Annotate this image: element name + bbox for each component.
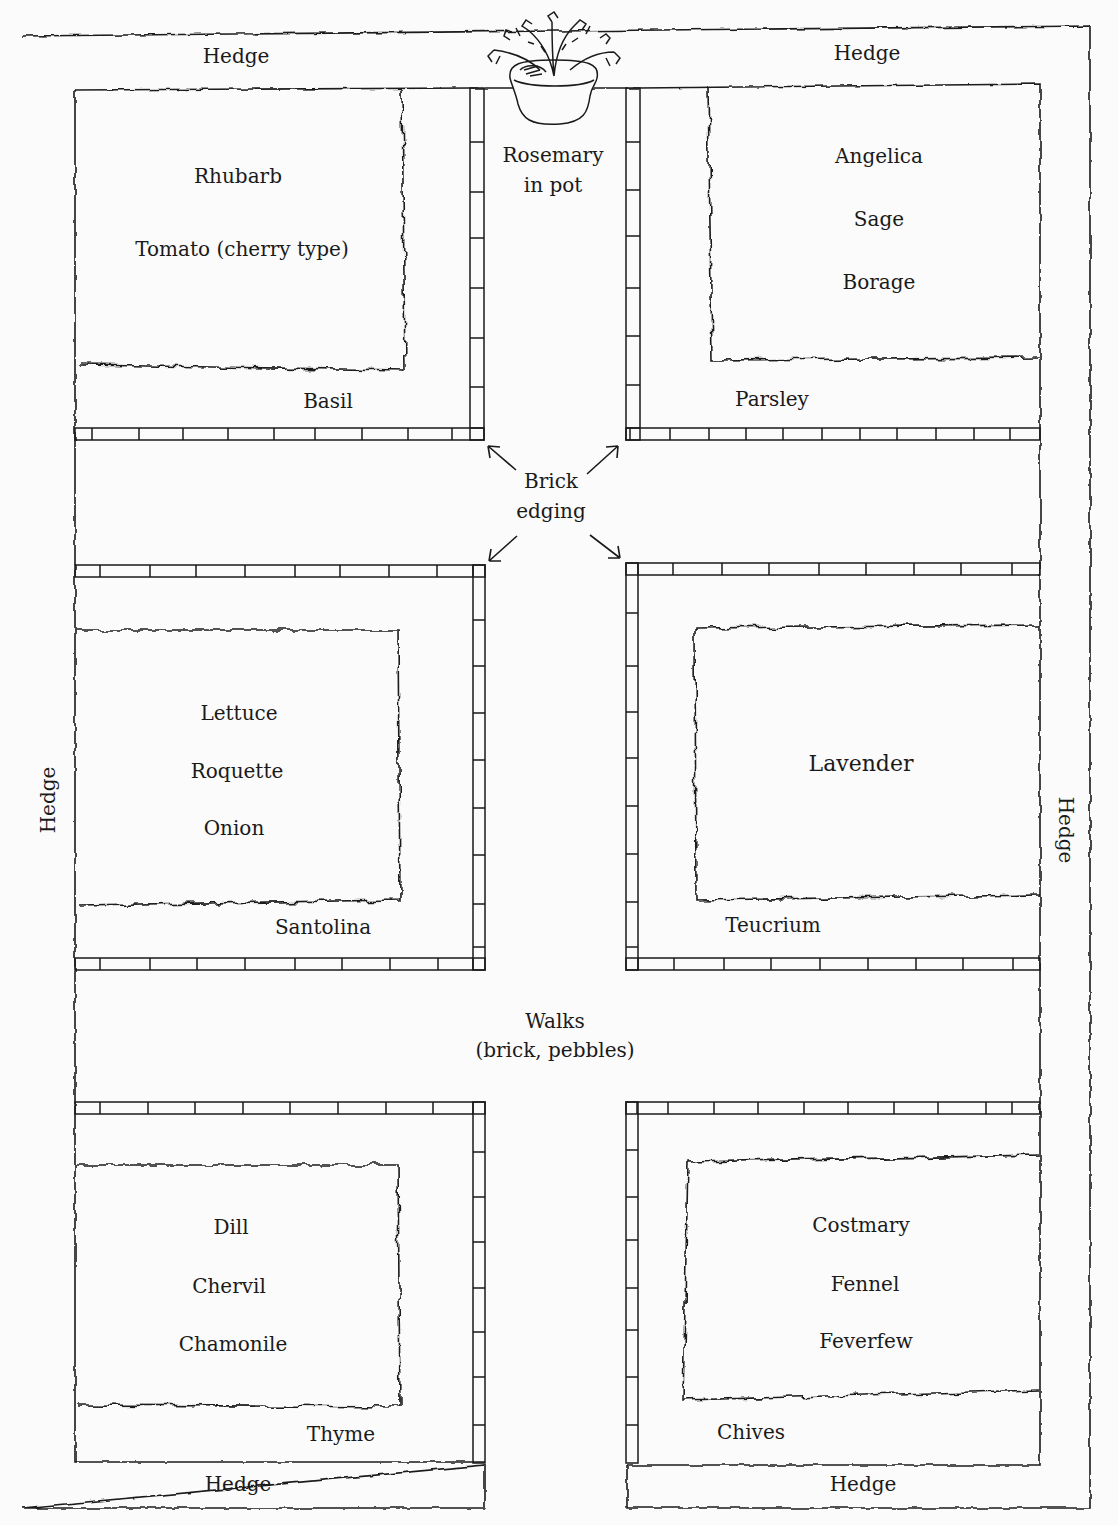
bed-top-left-border: Basil: [303, 391, 353, 411]
bed-middle-left-plant-2: Roquette: [191, 761, 284, 781]
bed-top-right-plant-1: Angelica: [835, 146, 923, 166]
walks-label-line2: (brick, pebbles): [475, 1040, 634, 1060]
bed-middle-right-border: Teucrium: [725, 915, 821, 935]
bed-bottom-left-plant-1: Dill: [213, 1217, 248, 1237]
bed-bottom-left-plant-3: Chamonile: [179, 1334, 288, 1354]
hedge-label-right: Hedge: [1054, 797, 1078, 864]
bed-top-right-plant-3: Borage: [843, 272, 916, 292]
hedge-label-left: Hedge: [36, 767, 60, 834]
rosemary-label-line2: in pot: [524, 175, 583, 195]
bed-bottom-left-plant-2: Chervil: [192, 1276, 266, 1296]
bed-middle-left-plant-1: Lettuce: [200, 703, 277, 723]
bed-top-right-plant-2: Sage: [854, 209, 904, 229]
bed-middle-left-border: Santolina: [275, 917, 371, 937]
bed-bottom-left-border: Thyme: [307, 1424, 375, 1444]
brick-edging-label-line2: edging: [516, 501, 586, 521]
bed-middle-left-plant-3: Onion: [204, 818, 265, 838]
bed-bottom-right-plant-1: Costmary: [812, 1215, 909, 1235]
bed-bottom-right-plant-2: Fennel: [831, 1274, 900, 1294]
hedge-label-top-left: Hedge: [203, 46, 270, 66]
bed-bottom-right-plant-3: Feverfew: [819, 1331, 913, 1351]
brick-edging-label-line1: Brick: [524, 471, 578, 491]
potted-plant-icon: [488, 12, 620, 124]
hedge-label-bottom-right: Hedge: [830, 1474, 897, 1494]
bed-bottom-right-border: Chives: [717, 1422, 785, 1442]
walks-label-line1: Walks: [525, 1011, 585, 1031]
bed-middle-right-plant-1: Lavender: [809, 753, 914, 775]
bed-top-right-border: Parsley: [735, 389, 809, 409]
rosemary-label-line1: Rosemary: [503, 145, 604, 165]
hedge-label-bottom-left: Hedge: [205, 1474, 272, 1494]
bed-top-left-plant-1: Rhubarb: [194, 166, 282, 186]
hedge-label-top-right: Hedge: [834, 43, 901, 63]
bed-top-left-plant-2: Tomato (cherry type): [135, 239, 348, 259]
garden-plan-drawing: [0, 0, 1118, 1525]
